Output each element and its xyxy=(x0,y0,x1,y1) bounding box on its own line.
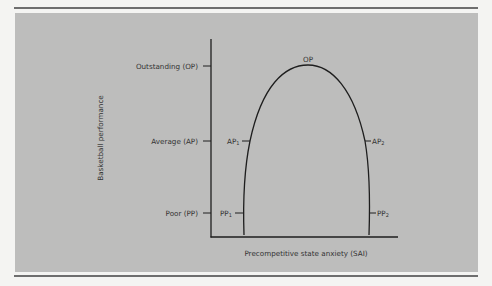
label-ap2: AP2 xyxy=(372,137,384,147)
inverted-u-diagram: Outstanding (OP) Average (AP) Poor (PP) … xyxy=(0,0,492,286)
label-poor: Poor (PP) xyxy=(166,209,199,218)
label-pp2: PP2 xyxy=(377,209,389,219)
label-op-apex: OP xyxy=(303,55,314,64)
label-ap1: AP1 xyxy=(227,137,239,147)
label-outstanding: Outstanding (OP) xyxy=(136,62,198,71)
label-pp1: PP1 xyxy=(220,209,232,219)
x-axis-title: Precompetitive state anxiety (SAI) xyxy=(244,249,367,258)
label-average: Average (AP) xyxy=(151,137,198,146)
y-axis-title: Basketball performance xyxy=(96,95,105,181)
inverted-u-curve xyxy=(244,65,370,235)
